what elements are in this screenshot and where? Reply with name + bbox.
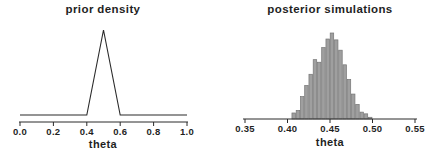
histogram-bar — [292, 113, 296, 119]
x-tick-label: 0.35 — [235, 123, 255, 134]
x-axis-label-prior: theta — [0, 138, 206, 150]
histogram-bar — [343, 65, 347, 119]
histogram-bar — [330, 33, 334, 119]
histogram-bar — [309, 74, 313, 119]
histogram-bar — [313, 60, 317, 119]
histogram-bar — [305, 85, 309, 119]
histogram-bar — [296, 110, 300, 119]
histogram-bar — [339, 50, 343, 119]
x-tick-label: 0.8 — [147, 126, 161, 137]
histogram-bar — [334, 40, 338, 119]
x-tick-label: 0.40 — [278, 123, 298, 134]
density-line — [20, 30, 187, 115]
prior-density-panel: prior density 0.00.20.40.60.81.0 theta — [0, 0, 220, 155]
histogram-bar — [356, 104, 360, 119]
x-tick-label: 0.6 — [113, 126, 127, 137]
x-tick-label: 0.45 — [320, 123, 340, 134]
histogram-bar — [322, 48, 326, 119]
x-tick-label: 0.4 — [80, 126, 95, 137]
x-tick-label: 0.50 — [363, 123, 383, 134]
posterior-simulations-panel: posterior simulations 0.350.400.450.500.… — [220, 0, 441, 155]
histogram-bar — [300, 97, 304, 119]
histogram-bar — [364, 114, 368, 119]
two-panel-figure: prior density 0.00.20.40.60.81.0 theta p… — [0, 0, 441, 155]
histogram-bar — [317, 62, 321, 119]
x-tick-label: 1.0 — [180, 126, 194, 137]
x-tick-label: 0.2 — [46, 126, 60, 137]
x-tick-label: 0.0 — [13, 126, 27, 137]
histogram-bar — [351, 94, 355, 119]
x-tick-label: 0.55 — [405, 123, 425, 134]
histogram-bar — [347, 79, 351, 119]
posterior-simulations-plot: 0.350.400.450.500.55 — [220, 0, 441, 155]
histogram-bar — [360, 112, 364, 119]
prior-density-plot: 0.00.20.40.60.81.0 — [0, 0, 220, 155]
x-axis-label-posterior: theta — [220, 136, 440, 148]
histogram-bar — [326, 39, 330, 119]
